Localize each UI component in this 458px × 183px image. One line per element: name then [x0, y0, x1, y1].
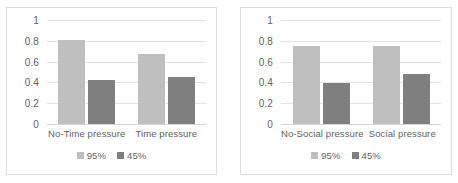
y-tick-label: 0.4: [259, 77, 273, 88]
bar-95[interactable]: [138, 54, 165, 124]
x-category-label: Time pressure: [127, 128, 207, 139]
chart-panel-time-pressure: 1 0.8 0.6 0.4 0.2 0: [0, 0, 229, 183]
plot-area-left: [47, 20, 206, 124]
y-tick-label: 0: [33, 119, 39, 130]
y-tick-label: 0.2: [259, 98, 273, 109]
bar-95[interactable]: [58, 40, 85, 124]
y-tick-label: 1: [267, 15, 273, 26]
chart-frame-right: 1 0.8 0.6 0.4 0.2 0: [240, 7, 452, 175]
bar-45[interactable]: [403, 74, 430, 124]
y-tick-label: 0.6: [259, 56, 273, 67]
legend-label: 95%: [87, 150, 106, 161]
legend-item-45[interactable]: 45%: [117, 150, 146, 161]
y-axis-labels-right: 1 0.8 0.6 0.4 0.2 0: [243, 20, 277, 124]
axis-baseline: [47, 124, 206, 125]
x-axis-labels-right: No-Social pressure Social pressure: [281, 128, 441, 139]
bar-45[interactable]: [323, 83, 350, 124]
legend-item-95[interactable]: 95%: [77, 150, 106, 161]
y-tick-label: 0.8: [25, 35, 39, 46]
bars-right: [281, 20, 441, 124]
bar-group: [127, 20, 207, 124]
axis-baseline: [281, 124, 441, 125]
legend-label: 45%: [362, 150, 381, 161]
legend-swatch-icon: [77, 152, 84, 159]
bar-group: [281, 20, 361, 124]
bars-left: [47, 20, 206, 124]
bar-95[interactable]: [293, 46, 320, 124]
y-tick-label: 0.8: [259, 35, 273, 46]
y-tick-label: 1: [33, 15, 39, 26]
dual-bar-chart-figure: 1 0.8 0.6 0.4 0.2 0: [0, 0, 458, 183]
chart-panel-social-pressure: 1 0.8 0.6 0.4 0.2 0: [229, 0, 458, 183]
bar-45[interactable]: [88, 80, 115, 124]
y-tick-label: 0.4: [25, 77, 39, 88]
y-axis-labels-left: 1 0.8 0.6 0.4 0.2 0: [9, 20, 43, 124]
legend-item-45[interactable]: 45%: [352, 150, 381, 161]
legend-right: 95% 45%: [241, 150, 451, 161]
bar-group: [47, 20, 127, 124]
bar-95[interactable]: [373, 46, 400, 124]
chart-frame-left: 1 0.8 0.6 0.4 0.2 0: [6, 7, 217, 175]
legend-swatch-icon: [311, 152, 318, 159]
plot-area-right: [281, 20, 441, 124]
bar-group: [361, 20, 441, 124]
x-axis-labels-left: No-Time pressure Time pressure: [47, 128, 206, 139]
legend-label: 95%: [321, 150, 340, 161]
bar-45[interactable]: [168, 77, 195, 124]
legend-label: 45%: [127, 150, 146, 161]
y-tick-label: 0.6: [25, 56, 39, 67]
x-category-label: Social pressure: [364, 128, 441, 139]
y-tick-label: 0: [267, 119, 273, 130]
y-tick-label: 0.2: [25, 98, 39, 109]
x-category-label: No-Social pressure: [281, 128, 364, 139]
x-category-label: No-Time pressure: [47, 128, 127, 139]
legend-swatch-icon: [352, 152, 359, 159]
legend-swatch-icon: [117, 152, 124, 159]
legend-left: 95% 45%: [7, 150, 216, 161]
legend-item-95[interactable]: 95%: [311, 150, 340, 161]
